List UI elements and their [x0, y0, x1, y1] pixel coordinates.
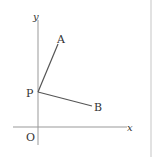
x-axis-label: x — [127, 122, 133, 133]
point-b-label: B — [94, 101, 102, 114]
segment-pa — [38, 44, 58, 92]
origin-label: O — [26, 131, 35, 144]
coordinate-diagram: y x O A P B — [0, 0, 154, 157]
point-p-label: P — [26, 87, 34, 100]
y-axis-label: y — [32, 11, 39, 22]
point-a-label: A — [56, 33, 66, 46]
segment-pb — [38, 92, 92, 106]
